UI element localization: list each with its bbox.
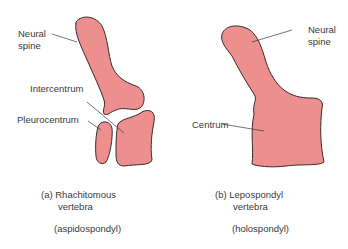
- caption-b-sub: (holospondyl): [232, 223, 289, 234]
- label-intercentrum: Intercentrum: [30, 83, 83, 94]
- caption-b-1: (b) Lepospondyl: [215, 189, 283, 200]
- leader-neural-spine-b: [252, 30, 292, 42]
- caption-b-2: vertebra: [233, 201, 269, 212]
- vertebrae-diagram: Neural spine Intercentrum Pleurocentrum …: [0, 0, 348, 249]
- label-neural-b-2: spine: [308, 36, 331, 47]
- caption-a-1: (a) Rhachitomous: [41, 189, 116, 200]
- label-pleurocentrum: Pleurocentrum: [17, 114, 79, 125]
- caption-a-sub: (aspidospondyl): [54, 223, 121, 234]
- caption-a-2: vertebra: [58, 201, 94, 212]
- label-centrum: Centrum: [192, 119, 229, 130]
- label-neural-a-2: spine: [18, 40, 41, 51]
- leader-neural-spine-a: [52, 34, 77, 42]
- lepospondyl-vertebra: Neural spine Centrum (b) Lepospondyl ver…: [192, 24, 336, 234]
- rhachitomous-vertebra: Neural spine Intercentrum Pleurocentrum …: [17, 17, 154, 234]
- label-neural-b-1: Neural: [308, 24, 336, 35]
- label-neural-a-1: Neural: [18, 28, 46, 39]
